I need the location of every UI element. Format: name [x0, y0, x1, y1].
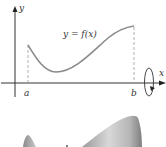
curve-label: y = f(x) [62, 29, 97, 39]
revolution-diagram: y x y = f(x) a b [0, 0, 166, 147]
rotation-arrow-icon [145, 68, 156, 96]
solid-of-revolution [23, 116, 142, 147]
y-axis-arrow-icon [13, 6, 18, 12]
y-axis-label: y [18, 3, 25, 13]
label-a: a [24, 88, 29, 98]
x-axis-label: x [159, 68, 164, 78]
solid-right-lobe [82, 116, 142, 147]
x-axis-arrow-icon [159, 81, 166, 86]
solid-axis-point [66, 145, 68, 147]
solid-left-peak [23, 135, 36, 147]
label-b: b [131, 88, 137, 98]
